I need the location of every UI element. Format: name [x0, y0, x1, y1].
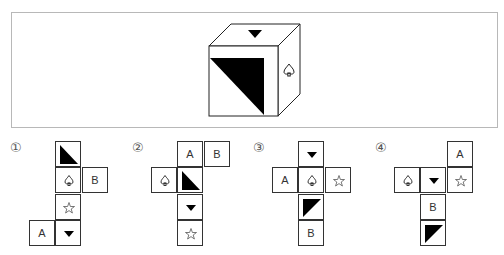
down-triangle-icon: [421, 168, 447, 194]
face-letter: B: [91, 174, 98, 186]
spade-icon: [152, 168, 178, 194]
net-face: [298, 167, 324, 193]
option-label: ①: [10, 140, 22, 155]
net-face: [177, 220, 203, 246]
face-letter: A: [456, 148, 463, 160]
net-face: [177, 194, 203, 220]
star-icon: [178, 221, 204, 247]
down-triangle-icon: [178, 195, 204, 221]
spade-icon: [56, 168, 82, 194]
down-triangle-icon: [299, 142, 325, 168]
net-face: [325, 167, 351, 193]
option-label: ②: [132, 140, 144, 155]
option-label: ③: [253, 140, 265, 155]
net-face: A: [29, 220, 55, 246]
spade-icon: [395, 168, 421, 194]
black-triangle-icon: [421, 221, 447, 247]
face-letter: B: [307, 227, 314, 239]
net-face: [298, 194, 324, 220]
star-icon: [448, 168, 474, 194]
face-letter: B: [213, 148, 220, 160]
black-triangle-icon: [178, 168, 204, 194]
spade-icon: [299, 168, 325, 194]
down-triangle-icon: [56, 221, 82, 247]
star-icon: [56, 195, 82, 221]
net-face: [55, 167, 81, 193]
option-label: ④: [375, 140, 387, 155]
net-face: [420, 220, 446, 246]
net-face: [177, 167, 203, 193]
net-face: B: [420, 194, 446, 220]
net-face: A: [177, 141, 203, 167]
net-face: [55, 141, 81, 167]
star-icon: [326, 168, 352, 194]
face-letter: A: [186, 148, 193, 160]
net-face: [420, 167, 446, 193]
net-face: B: [298, 220, 324, 246]
face-letter: A: [281, 174, 288, 186]
net-face: A: [272, 167, 298, 193]
black-triangle-icon: [56, 142, 82, 168]
cube-figure: [0, 0, 504, 130]
net-face: [151, 167, 177, 193]
black-triangle-icon: [299, 195, 325, 221]
net-face: [55, 194, 81, 220]
net-face: [447, 167, 473, 193]
net-face: B: [82, 167, 108, 193]
face-letter: A: [38, 227, 45, 239]
net-face: [394, 167, 420, 193]
net-face: [55, 220, 81, 246]
net-face: B: [204, 141, 230, 167]
net-face: A: [447, 141, 473, 167]
net-face: [298, 141, 324, 167]
face-letter: B: [429, 201, 436, 213]
